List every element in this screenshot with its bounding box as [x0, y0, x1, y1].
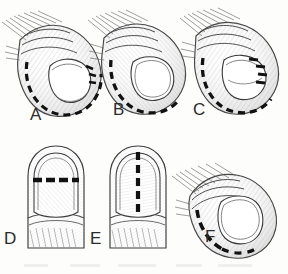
panel-d-nail-hatch: [34, 153, 78, 217]
figure-root: A B C D E F: [0, 0, 288, 274]
panel-f-nail-plate: [218, 196, 263, 244]
panel-b-nail-plate: [131, 57, 174, 101]
panel-label-f: F: [205, 228, 215, 245]
panel-c-nail-plate: [222, 55, 266, 99]
nail-surgery-figure: [0, 0, 288, 274]
scan-artifact-strip: [24, 264, 252, 267]
panel-e: [110, 146, 166, 248]
panel-b: [88, 10, 186, 114]
panel-label-e: E: [90, 230, 101, 247]
panel-d: [28, 146, 84, 248]
panel-label-d: D: [4, 230, 16, 247]
panel-a: [2, 11, 101, 116]
panel-label-c: C: [193, 101, 205, 118]
panel-label-b: B: [113, 101, 124, 118]
panel-f: [172, 163, 276, 258]
panel-c: [180, 8, 279, 114]
panel-label-a: A: [30, 106, 41, 123]
